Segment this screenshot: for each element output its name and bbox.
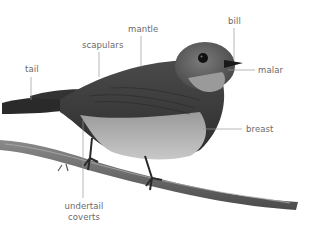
label-malar: malar xyxy=(258,65,283,76)
label-breast: breast xyxy=(246,124,274,135)
label-scapulars: scapulars xyxy=(82,40,124,51)
label-tail: tail xyxy=(25,64,39,75)
bird-illustration xyxy=(0,0,320,234)
label-undertail-coverts: undertail coverts xyxy=(62,201,106,222)
label-mantle: mantle xyxy=(128,24,158,35)
label-bill: bill xyxy=(228,16,241,27)
eye xyxy=(198,53,208,63)
label-undertail-coverts-line1: undertail xyxy=(62,201,106,212)
label-undertail-coverts-line2: coverts xyxy=(62,212,106,223)
